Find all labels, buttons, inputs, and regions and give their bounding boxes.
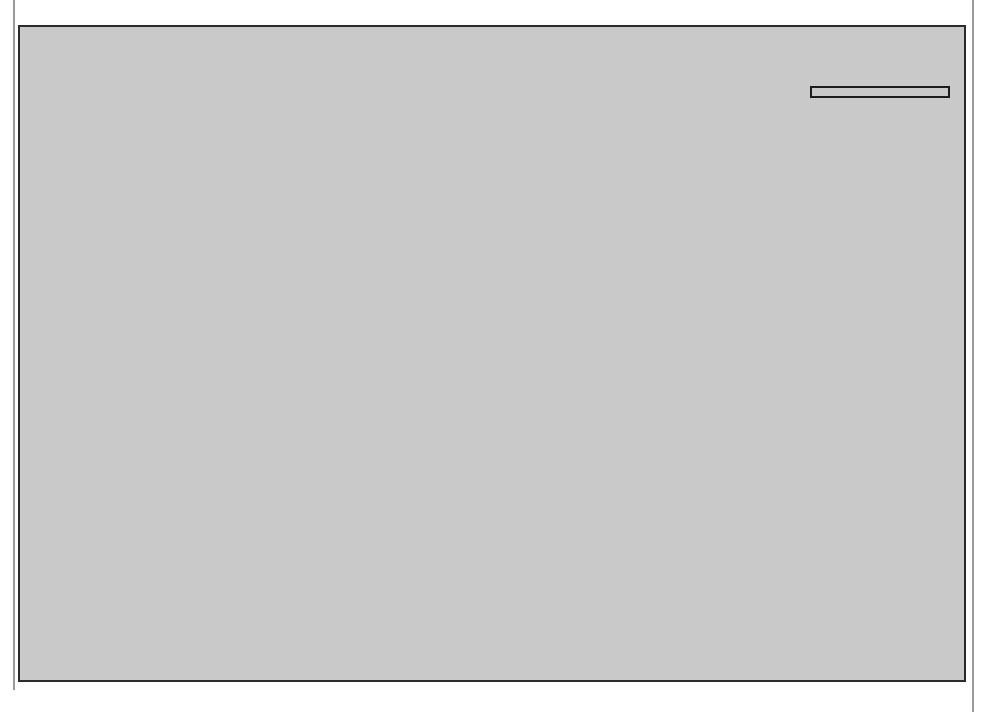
panel-hazard <box>420 379 808 674</box>
panel-survival <box>48 379 408 674</box>
panel-pdf <box>48 90 408 380</box>
survival-plot <box>48 379 408 674</box>
distribution-overview-figure <box>18 25 966 682</box>
page-margin-rule-left <box>13 30 15 690</box>
page-margin-rule-left-top <box>13 0 15 30</box>
page-margin-rule-right <box>972 0 974 712</box>
panel-probability-plot <box>420 90 808 380</box>
scanned-page <box>0 0 985 712</box>
pdf-plot <box>48 90 408 380</box>
hazard-plot <box>420 379 808 674</box>
probability-plot <box>420 90 808 380</box>
table-of-statistics <box>810 86 950 98</box>
stats-table-header <box>817 91 943 92</box>
